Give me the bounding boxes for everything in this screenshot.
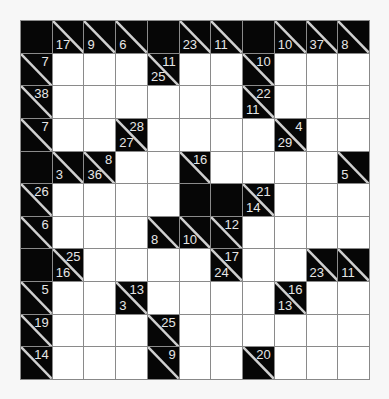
entry-cell[interactable] [306, 281, 338, 314]
clue-cell: 10 [274, 20, 306, 53]
entry-cell[interactable] [115, 248, 147, 281]
across-sum-clue: 25 [161, 316, 175, 330]
entry-cell[interactable] [179, 248, 211, 281]
entry-cell[interactable] [83, 314, 115, 347]
entry-cell[interactable] [210, 151, 242, 184]
entry-cell[interactable] [83, 53, 115, 86]
clue-cell: 38 [20, 85, 52, 118]
blocked-cell [20, 151, 52, 184]
entry-cell[interactable] [337, 314, 369, 347]
entry-cell[interactable] [83, 281, 115, 314]
across-sum-clue: 5 [41, 283, 48, 297]
entry-cell[interactable] [179, 314, 211, 347]
down-sum-clue: 29 [278, 136, 292, 150]
down-sum-clue: 27 [119, 136, 133, 150]
clue-cell: 6 [20, 216, 52, 249]
entry-cell[interactable] [274, 183, 306, 216]
entry-cell[interactable] [242, 314, 274, 347]
entry-cell[interactable] [337, 53, 369, 86]
entry-cell[interactable] [210, 281, 242, 314]
entry-cell[interactable] [179, 346, 211, 379]
blocked-cell [20, 248, 52, 281]
entry-cell[interactable] [274, 216, 306, 249]
entry-cell[interactable] [115, 346, 147, 379]
clue-cell: 2516 [52, 248, 84, 281]
entry-cell[interactable] [83, 346, 115, 379]
entry-cell[interactable] [306, 183, 338, 216]
down-sum-clue: 17 [56, 38, 70, 52]
entry-cell[interactable] [147, 248, 179, 281]
entry-cell[interactable] [52, 216, 84, 249]
entry-cell[interactable] [83, 118, 115, 151]
entry-cell[interactable] [115, 183, 147, 216]
entry-cell[interactable] [115, 85, 147, 118]
clue-cell: 10 [242, 53, 274, 86]
entry-cell[interactable] [337, 281, 369, 314]
entry-cell[interactable] [337, 118, 369, 151]
entry-cell[interactable] [337, 85, 369, 118]
entry-cell[interactable] [306, 118, 338, 151]
entry-cell[interactable] [210, 314, 242, 347]
clue-cell: 7 [20, 53, 52, 86]
entry-cell[interactable] [83, 85, 115, 118]
down-sum-clue: 24 [214, 266, 228, 280]
entry-cell[interactable] [179, 281, 211, 314]
entry-cell[interactable] [115, 314, 147, 347]
down-sum-clue: 16 [56, 266, 70, 280]
entry-cell[interactable] [52, 85, 84, 118]
entry-cell[interactable] [274, 314, 306, 347]
entry-cell[interactable] [306, 85, 338, 118]
entry-cell[interactable] [115, 216, 147, 249]
across-sum-clue: 13 [129, 283, 143, 297]
entry-cell[interactable] [210, 118, 242, 151]
entry-cell[interactable] [242, 151, 274, 184]
entry-cell[interactable] [242, 216, 274, 249]
down-sum-clue: 8 [341, 38, 348, 52]
entry-cell[interactable] [274, 151, 306, 184]
clue-cell: 2114 [242, 183, 274, 216]
entry-cell[interactable] [115, 53, 147, 86]
entry-cell[interactable] [179, 53, 211, 86]
entry-cell[interactable] [337, 216, 369, 249]
entry-cell[interactable] [52, 346, 84, 379]
entry-cell[interactable] [306, 216, 338, 249]
entry-cell[interactable] [337, 183, 369, 216]
entry-cell[interactable] [337, 346, 369, 379]
entry-cell[interactable] [147, 151, 179, 184]
entry-cell[interactable] [147, 281, 179, 314]
entry-cell[interactable] [52, 183, 84, 216]
entry-cell[interactable] [179, 118, 211, 151]
entry-cell[interactable] [52, 281, 84, 314]
entry-cell[interactable] [242, 118, 274, 151]
entry-cell[interactable] [147, 183, 179, 216]
entry-cell[interactable] [306, 346, 338, 379]
down-sum-clue: 3 [119, 299, 126, 313]
entry-cell[interactable] [179, 85, 211, 118]
entry-cell[interactable] [306, 53, 338, 86]
entry-cell[interactable] [306, 314, 338, 347]
down-sum-clue: 23 [310, 266, 324, 280]
clue-cell: 133 [115, 281, 147, 314]
entry-cell[interactable] [274, 53, 306, 86]
entry-cell[interactable] [274, 248, 306, 281]
entry-cell[interactable] [147, 85, 179, 118]
entry-cell[interactable] [274, 346, 306, 379]
entry-cell[interactable] [242, 248, 274, 281]
entry-cell[interactable] [83, 183, 115, 216]
entry-cell[interactable] [147, 118, 179, 151]
entry-cell[interactable] [83, 216, 115, 249]
entry-cell[interactable] [306, 151, 338, 184]
across-sum-clue: 26 [34, 185, 48, 199]
across-sum-clue: 11 [162, 55, 176, 69]
entry-cell[interactable] [115, 151, 147, 184]
entry-cell[interactable] [52, 118, 84, 151]
entry-cell[interactable] [210, 85, 242, 118]
across-sum-clue: 8 [105, 153, 112, 167]
entry-cell[interactable] [242, 281, 274, 314]
entry-cell[interactable] [52, 314, 84, 347]
entry-cell[interactable] [210, 53, 242, 86]
entry-cell[interactable] [52, 53, 84, 86]
entry-cell[interactable] [210, 346, 242, 379]
entry-cell[interactable] [274, 85, 306, 118]
entry-cell[interactable] [83, 248, 115, 281]
